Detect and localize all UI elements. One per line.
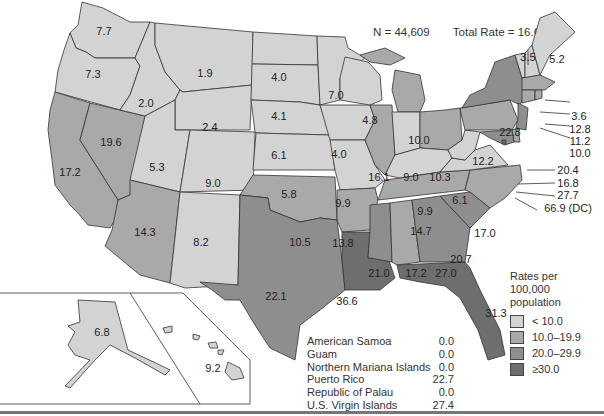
state-ND <box>252 32 318 65</box>
svg-text:9.2: 9.2 <box>205 362 220 374</box>
territory-row: U.S. Virgin Islands27.4 <box>307 399 454 412</box>
svg-text:4.1: 4.1 <box>271 110 286 122</box>
svg-text:4.8: 4.8 <box>362 114 377 126</box>
territory-row: Northern Mariana Islands0.0 <box>307 361 454 374</box>
svg-text:10.0: 10.0 <box>408 134 429 146</box>
territories-table: American Samoa0.0 Guam0.0 Northern Maria… <box>307 335 454 412</box>
svg-text:17.2: 17.2 <box>405 267 426 279</box>
svg-text:36.6: 36.6 <box>336 295 357 307</box>
svg-text:12.2: 12.2 <box>472 155 493 167</box>
svg-text:3.5: 3.5 <box>520 51 535 63</box>
svg-text:7.0: 7.0 <box>328 89 343 101</box>
svg-text:14.7: 14.7 <box>410 225 431 237</box>
svg-text:2.0: 2.0 <box>138 97 153 109</box>
svg-text:5.8: 5.8 <box>281 188 296 200</box>
state-MS <box>368 203 392 262</box>
state-HI <box>163 326 244 380</box>
svg-text:2.4: 2.4 <box>202 121 217 133</box>
legend-item: ≥30.0 <box>510 361 590 377</box>
svg-text:5.2: 5.2 <box>549 53 564 65</box>
territory-row: Puerto Rico22.7 <box>307 373 454 386</box>
svg-text:14.3: 14.3 <box>134 226 155 238</box>
svg-text:21.0: 21.0 <box>368 267 389 279</box>
swatch-20-29 <box>510 347 524 360</box>
territory-row: American Samoa0.0 <box>307 335 454 348</box>
swatch-10-19 <box>510 331 524 344</box>
svg-text:17.2: 17.2 <box>59 166 80 178</box>
svg-text:12.8: 12.8 <box>569 123 590 135</box>
state-RI <box>535 90 542 100</box>
state-NY <box>462 55 525 108</box>
svg-text:10.3: 10.3 <box>429 171 450 183</box>
svg-text:16.8: 16.8 <box>557 177 578 189</box>
state-CT <box>522 90 535 103</box>
svg-text:22.1: 22.1 <box>265 290 286 302</box>
svg-text:31.3: 31.3 <box>485 307 506 319</box>
svg-text:10.0: 10.0 <box>569 147 590 159</box>
svg-text:27.7: 27.7 <box>557 189 578 201</box>
state-ME <box>532 12 575 75</box>
svg-text:6.1: 6.1 <box>452 194 467 206</box>
legend-item: 20.0–29.9 <box>510 345 590 361</box>
svg-text:8.2: 8.2 <box>193 236 208 248</box>
svg-text:16.1: 16.1 <box>368 171 389 183</box>
svg-text:13.8: 13.8 <box>332 237 353 249</box>
state-NE <box>251 100 330 135</box>
svg-text:6.8: 6.8 <box>94 326 109 338</box>
territory-row: Guam0.0 <box>307 348 454 361</box>
choropleth-map-figure: N = 44,609 Total Rate = 16.6 <box>0 0 604 416</box>
svg-text:1.9: 1.9 <box>197 67 212 79</box>
svg-text:22.8: 22.8 <box>499 126 520 138</box>
territory-row: Republic of Palau0.0 <box>307 386 454 399</box>
svg-text:3.6: 3.6 <box>571 110 586 122</box>
state-KS <box>253 133 335 170</box>
svg-text:9.9: 9.9 <box>335 197 350 209</box>
swatch-lt10 <box>510 315 524 328</box>
svg-text:20.4: 20.4 <box>557 164 578 176</box>
svg-text:7.7: 7.7 <box>96 25 111 37</box>
state-AK <box>65 300 170 388</box>
svg-text:7.3: 7.3 <box>85 68 100 80</box>
svg-text:4.0: 4.0 <box>271 71 286 83</box>
svg-text:9.0: 9.0 <box>205 177 220 189</box>
swatch-ge30 <box>510 363 524 376</box>
svg-text:10.5: 10.5 <box>289 236 310 248</box>
state-MI <box>392 70 425 112</box>
svg-text:5.3: 5.3 <box>149 161 164 173</box>
svg-text:9.9: 9.9 <box>417 205 432 217</box>
svg-text:20.7: 20.7 <box>450 253 471 265</box>
svg-text:66.9 (DC): 66.9 (DC) <box>544 202 592 214</box>
svg-text:19.6: 19.6 <box>100 136 121 148</box>
legend-item: < 10.0 <box>510 313 590 329</box>
legend: Rates per 100,000 population < 10.0 10.0… <box>510 270 590 377</box>
state-WI <box>340 57 382 105</box>
svg-text:27.0: 27.0 <box>435 267 456 279</box>
svg-text:9.0: 9.0 <box>403 171 418 183</box>
svg-text:6.1: 6.1 <box>271 149 286 161</box>
legend-title: Rates per 100,000 population <box>510 270 590 309</box>
state-MA <box>522 75 555 90</box>
svg-text:17.0: 17.0 <box>474 227 495 239</box>
bottom-rule <box>0 411 604 414</box>
legend-item: 10.0–19.9 <box>510 329 590 345</box>
svg-text:11.2: 11.2 <box>570 135 591 147</box>
state-DC <box>502 140 506 144</box>
inset-divider <box>130 293 200 404</box>
svg-text:4.0: 4.0 <box>331 148 346 160</box>
